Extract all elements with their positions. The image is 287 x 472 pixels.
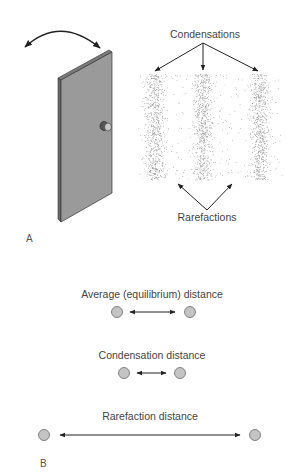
door-swing-arrow-icon [25, 31, 100, 48]
condensation-distance-label: Condensation distance [99, 349, 206, 361]
panel-letter-b: B [40, 458, 47, 469]
panel-letter-a: A [26, 233, 33, 244]
particle-field [138, 74, 282, 181]
condensations-label: Condensations [170, 28, 240, 40]
rarefaction-arrows-icon [178, 184, 232, 210]
condensation-arrows-icon [155, 43, 258, 71]
condensation-row [119, 368, 186, 379]
diagram-graphics [0, 0, 287, 472]
door-icon [58, 50, 112, 222]
rarefactions-label: Rarefactions [178, 211, 237, 223]
equilibrium-row [112, 307, 196, 318]
rarefaction-row [39, 430, 261, 441]
equilibrium-distance-label: Average (equilibrium) distance [81, 288, 223, 300]
rarefaction-distance-label: Rarefaction distance [102, 410, 198, 422]
